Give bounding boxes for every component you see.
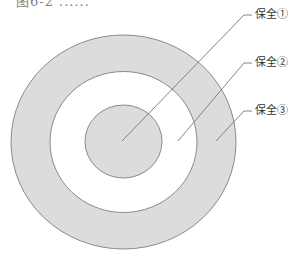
label-maintenance-2: 保全②: [255, 57, 288, 69]
concentric-ring-diagram: [0, 0, 292, 257]
inner-circle: [85, 105, 162, 178]
label-maintenance-1: 保全①: [255, 9, 288, 21]
label-maintenance-3: 保全③: [255, 105, 288, 117]
